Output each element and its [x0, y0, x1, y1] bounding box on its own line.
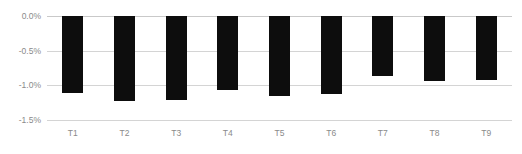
plot-area	[47, 16, 512, 120]
y-tick-label: 0.0%	[22, 11, 41, 21]
bar	[269, 16, 290, 96]
x-tick-label: T5	[275, 128, 285, 138]
x-tick-label: T1	[68, 128, 78, 138]
bar-chart: 0.0%-0.5%-1.0%-1.5% T1T2T3T4T5T6T7T8T9	[0, 0, 522, 154]
x-tick-label: T7	[378, 128, 388, 138]
bar	[424, 16, 445, 81]
y-tick-label: -1.0%	[19, 80, 41, 90]
bar	[321, 16, 342, 94]
bar	[114, 16, 135, 101]
x-tick-label: T6	[326, 128, 336, 138]
x-axis: T1T2T3T4T5T6T7T8T9	[47, 128, 512, 148]
x-tick-label: T4	[223, 128, 233, 138]
bar	[372, 16, 393, 76]
x-tick-label: T8	[430, 128, 440, 138]
y-tick-label: -1.5%	[19, 115, 41, 125]
y-axis: 0.0%-0.5%-1.0%-1.5%	[0, 0, 44, 154]
x-tick-label: T3	[171, 128, 181, 138]
gridline	[47, 120, 512, 121]
bars-layer	[47, 16, 512, 120]
bar	[62, 16, 83, 93]
y-tick-label: -0.5%	[19, 46, 41, 56]
x-tick-label: T2	[120, 128, 130, 138]
bar	[166, 16, 187, 100]
bar	[476, 16, 497, 80]
bar	[217, 16, 238, 90]
x-tick-label: T9	[481, 128, 491, 138]
